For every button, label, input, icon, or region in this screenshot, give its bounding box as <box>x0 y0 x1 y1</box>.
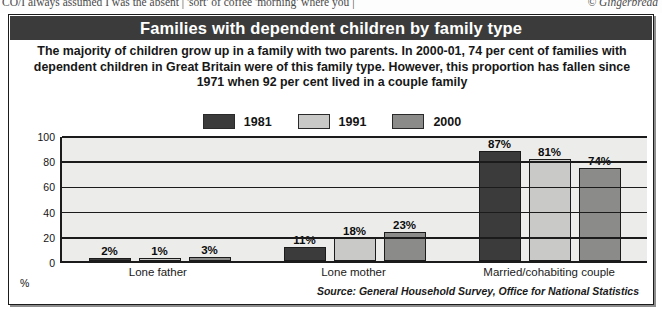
bar-1991-1[interactable]: 1% <box>139 258 181 261</box>
y-tick-40: 40 <box>43 207 55 219</box>
bar-1981-1[interactable]: 2% <box>89 258 131 261</box>
category-label-2: Lone mother <box>256 266 452 278</box>
legend-item-1981: 1981 <box>203 114 272 129</box>
legend-swatch-1991 <box>298 114 330 129</box>
chart-figure: Families with dependent children by fami… <box>8 14 654 305</box>
bar-value-label: 3% <box>201 244 218 256</box>
legend-label-1981: 1981 <box>244 115 272 129</box>
legend-swatch-2000 <box>392 114 424 129</box>
gridline-60 <box>62 187 647 189</box>
bar-group-3: 87%81%74% <box>452 137 647 261</box>
y-tick-60: 60 <box>43 181 55 193</box>
gridline-80 <box>62 161 647 163</box>
bar-slot: 18% <box>334 137 376 261</box>
bar-slot: 11% <box>284 137 326 261</box>
chart-plot-wrapper: 100806040200 % 2%1%3%11%18%23%87%81%74% … <box>19 137 647 283</box>
bar-slot: 81% <box>529 137 571 261</box>
legend-item-1991: 1991 <box>298 114 367 129</box>
y-axis-unit-label: % <box>20 277 29 289</box>
bar-value-label: 23% <box>393 219 416 231</box>
bar-value-label: 18% <box>343 225 366 237</box>
category-label-3: Married/cohabiting couple <box>451 266 647 278</box>
chart-standfirst: The majority of children grow up in a fa… <box>27 44 637 91</box>
chart-plot-area: 2%1%3%11%18%23%87%81%74% <box>60 137 647 263</box>
legend-swatch-1981 <box>203 114 235 129</box>
bar-2000-1[interactable]: 3% <box>189 257 231 261</box>
legend-label-2000: 2000 <box>433 115 461 129</box>
bar-slot: 3% <box>189 137 231 261</box>
legend-item-2000: 2000 <box>392 114 461 129</box>
gridline-40 <box>62 212 647 214</box>
bar-1991-2[interactable]: 18% <box>334 238 376 261</box>
gridline-20 <box>62 237 647 239</box>
bar-group-2: 11%18%23% <box>257 137 452 261</box>
bar-2000-3[interactable]: 74% <box>579 168 621 261</box>
bar-value-label: 81% <box>538 146 561 158</box>
y-tick-20: 20 <box>43 232 55 244</box>
bar-value-label: 1% <box>151 245 168 257</box>
bar-value-label: 2% <box>101 245 118 257</box>
y-axis-tick-labels: 100806040200 <box>19 137 55 263</box>
clipped-text-left: CO/I always assumed I was the absent | '… <box>2 0 354 8</box>
category-label-1: Lone father <box>60 266 256 278</box>
bar-slot: 74% <box>579 137 621 261</box>
bar-slot: 87% <box>479 137 521 261</box>
chart-headline-bar: Families with dependent children by fami… <box>10 16 652 40</box>
chart-title: Families with dependent children by fami… <box>140 19 522 38</box>
bar-group-1: 2%1%3% <box>62 137 257 261</box>
bar-slot: 2% <box>89 137 131 261</box>
chart-bars: 2%1%3%11%18%23%87%81%74% <box>62 137 647 261</box>
clipped-newspaper-strip: CO/I always assumed I was the absent | '… <box>0 0 662 13</box>
legend-label-1991: 1991 <box>339 115 367 129</box>
y-tick-80: 80 <box>43 156 55 168</box>
bar-slot: 23% <box>384 137 426 261</box>
bar-1991-3[interactable]: 81% <box>529 159 571 261</box>
bar-1981-3[interactable]: 87% <box>479 151 521 261</box>
y-tick-0: 0 <box>49 257 55 269</box>
clipped-credit-right: © Gingerbread <box>587 0 658 8</box>
bar-value-label: 11% <box>293 234 315 246</box>
bar-slot: 1% <box>139 137 181 261</box>
chart-source-note: Source: General Household Survey, Office… <box>317 285 639 297</box>
x-axis-category-labels: Lone fatherLone motherMarried/cohabiting… <box>60 266 647 278</box>
gridline-100 <box>62 136 647 138</box>
bar-1981-2[interactable]: 11% <box>284 247 326 261</box>
y-tick-100: 100 <box>37 131 55 143</box>
chart-legend: 1981 1991 2000 <box>9 114 655 129</box>
bar-value-label: 87% <box>488 138 511 150</box>
